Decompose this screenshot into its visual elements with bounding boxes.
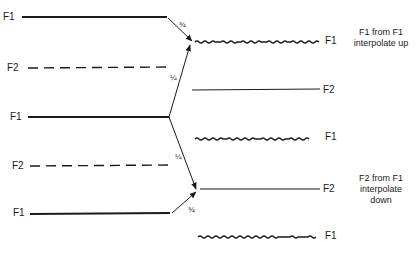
left-label-f1-bottom: F1 <box>13 208 25 218</box>
weight-label-bottom: ¾ <box>188 206 195 214</box>
annotation-interpolate-down: F2 from F1 interpolate down <box>350 173 412 206</box>
right-line-f1-middle-wavy <box>195 138 309 140</box>
arrow-f1-middle-to-f2-down <box>169 117 196 189</box>
left-label-f1-top: F1 <box>3 12 15 22</box>
weight-label-upper-middle: ¼ <box>170 74 177 82</box>
annotation-interpolate-up: F1 from F1 interpolate up <box>345 27 417 49</box>
left-line-f2-upper <box>28 67 167 68</box>
annotation-down-line1: F2 from F1 <box>350 173 412 184</box>
right-label-f2-lower: F2 <box>323 184 335 194</box>
left-lines <box>22 17 170 214</box>
annotation-up-line1: F1 from F1 <box>345 27 417 38</box>
interpolation-arrows <box>168 18 196 213</box>
weight-label-lower-middle: ¼ <box>175 153 182 161</box>
left-label-f2-lower: F2 <box>12 161 24 171</box>
right-label-f2-upper: F2 <box>323 85 335 95</box>
weight-label-top: ¾ <box>179 21 186 29</box>
annotation-up-line2: interpolate up <box>345 38 417 49</box>
right-lines <box>192 41 320 238</box>
left-line-f2-lower <box>30 165 170 166</box>
right-label-f1-middle: F1 <box>325 132 337 142</box>
right-label-f1-top: F1 <box>325 36 337 46</box>
right-label-f1-bottom: F1 <box>325 231 337 241</box>
left-label-f2-upper: F2 <box>7 63 19 73</box>
annotation-down-line2: interpolate <box>350 184 412 195</box>
right-line-f1-top-wavy <box>195 41 319 43</box>
right-line-f2-upper <box>192 89 320 90</box>
left-line-f1-bottom <box>30 213 170 214</box>
annotation-down-line3: down <box>350 195 412 206</box>
right-line-f1-bottom-wavy <box>198 236 316 238</box>
left-label-f1-middle: F1 <box>10 112 22 122</box>
